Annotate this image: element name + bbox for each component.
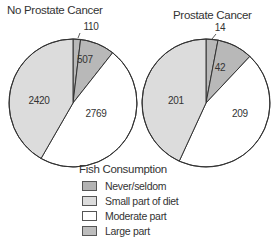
legend-item-large-part: Large part [82,223,178,238]
slice-value-label: 110 [83,21,99,32]
legend-label: Large part [105,225,150,237]
pie-no-prostate-cancer: 11050727692420 [9,21,137,167]
legend: Fish Consumption Never/seldom Small part… [82,163,178,238]
slice-value-label: 14 [215,22,226,33]
legend-swatch [82,196,97,206]
legend-item-small-part: Small part of diet [82,193,178,208]
slice-value-label: 42 [215,62,226,73]
slice-value-label: 2420 [28,95,50,106]
slice-value-label: 507 [77,54,94,65]
legend-label: Small part of diet [105,195,178,207]
legend-item-never-seldom: Never/seldom [82,178,178,193]
legend-swatch [82,211,97,221]
slice-value-label: 201 [168,95,185,106]
legend-swatch [82,226,97,236]
legend-swatch [82,181,97,191]
legend-label: Never/seldom [105,180,166,192]
legend-label: Moderate part [105,210,166,222]
pie-prostate-cancer: 1442209201 [142,22,270,167]
slice-value-label: 2769 [85,108,107,119]
slice-value-label: 209 [232,108,249,119]
pie-charts: 11050727692420 1442209201 [0,0,277,170]
legend-item-moderate-part: Moderate part [82,208,178,223]
legend-title: Fish Consumption [79,163,178,175]
